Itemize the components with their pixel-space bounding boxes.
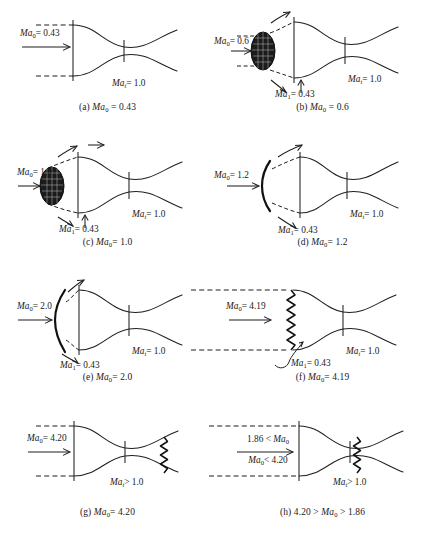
panel-caption-g: (g) Ma0= 4.20 (0, 507, 215, 518)
panel-caption-a: (a) Ma0 = 0.43 (0, 102, 215, 113)
swallowed-shock-zigzag (161, 437, 168, 473)
upper-spill-stream (48, 157, 78, 168)
throat-mach-label: Mat= 1.0 (348, 74, 381, 85)
freestream-mach-label: Ma0= 0.6 (214, 36, 249, 47)
lower-wall (294, 56, 398, 78)
throat-mach-label: Mat= 1.0 (132, 346, 165, 357)
inlet-station-mach-label: Ma1= 0.43 (60, 360, 100, 371)
freestream-mach-label: Ma0= 4.19 (226, 301, 266, 312)
panel-g: Ma0= 4.20 Mat> 1.0 (g) Ma0= 4.20 (0, 405, 215, 539)
panel-d: Ma0= 1.2 Ma1= 0.43 Mat= 1.0 (d) Ma0= 1.2 (215, 135, 430, 270)
panel-b: Ma0= 0.6 Ma1= 0.43 Mat= 1.0 (b) Ma0 = 0.… (215, 0, 430, 135)
upper-spill-stream (272, 157, 300, 169)
inlet-station-mach-label: Ma1= 0.43 (275, 89, 315, 100)
lower-wall (299, 455, 403, 476)
freestream-mach-label: Ma0= 4.20 (27, 433, 67, 444)
freestream-mach-label: Ma0= 2.0 (17, 301, 52, 312)
panel-c: Ma0= 1.0 Ma1= 0.43 Mat= 1.0 (c) Ma0= 1.0 (0, 135, 215, 270)
panel-caption-e: (e) Ma0= 2.0 (0, 372, 215, 383)
upper-spill-stream (270, 22, 294, 33)
throat-mach-label: Mat= 1.0 (112, 78, 145, 89)
normal-shock-zigzag (287, 290, 295, 350)
upper-wall (293, 290, 396, 312)
panel-caption-d: (d) Ma0= 1.2 (215, 237, 430, 248)
inlet-station-mach-label: Ma1= 0.43 (59, 224, 99, 235)
bow-shock (262, 161, 270, 211)
freestream-mach-label-line2: Ma0< 4.20 (233, 455, 303, 466)
panel-caption-h: (h) 4.20 > Ma0 > 1.86 (215, 507, 430, 518)
lower-wall (293, 328, 396, 350)
panel-caption-c: (c) Ma0= 1.0 (0, 237, 215, 248)
inlet-station-mach-label: Ma1= 0.43 (291, 358, 331, 369)
upper-wall (73, 25, 177, 47)
lower-wall (73, 54, 177, 76)
upper-spill-arrow (271, 12, 290, 23)
freestream-mach-label-line1: 1.86 < Ma0 (233, 434, 303, 445)
lower-spill-stream (66, 340, 79, 350)
freestream-mach-label: Ma0= 1.2 (214, 170, 249, 181)
throat-mach-label: Mat> 1.0 (333, 477, 366, 488)
panel-h: 1.86 < Ma0 Ma0< 4.20 Mat> 1.0 (h) 4.20 >… (215, 405, 430, 539)
inlet-station-mach-label: Ma1= 0.43 (278, 225, 318, 236)
throat-mach-label: Mat> 1.0 (110, 477, 143, 488)
lower-wall (78, 191, 182, 213)
freestream-mach-label: Ma0= 1.0 (17, 167, 52, 178)
upper-spill-arrowhead (77, 280, 84, 286)
bow-shock (55, 290, 65, 352)
panel-a: Ma0= 0.43 Mat= 1.0 (a) Ma0 = 0.43 (0, 0, 215, 135)
lower-wall (79, 328, 182, 350)
panel-f: Ma0= 4.19 Ma1= 0.43 Mat= 1.0 (f) Ma0= 4.… (215, 270, 430, 405)
upper-wall (294, 22, 398, 44)
upper-spill-arrow (58, 146, 77, 157)
lower-spill-stream (270, 70, 294, 78)
throat-mach-label: Mat= 1.0 (346, 346, 379, 357)
freestream-mach-label: Ma0= 0.43 (20, 28, 60, 39)
panel-caption-b: (b) Ma0 = 0.6 (215, 102, 430, 113)
upper-wall (78, 157, 182, 179)
throat-mach-label: Mat= 1.0 (132, 209, 165, 220)
throat-mach-label: Mat= 1.0 (350, 209, 383, 220)
panel-caption-f: (f) Ma0= 4.19 (215, 372, 430, 383)
panel-e: Ma0= 2.0 Ma1= 0.43 Mat= 1.0 (e) Ma0= 2.0 (0, 270, 215, 405)
upper-wall (79, 290, 182, 312)
upper-wall (299, 426, 403, 448)
lower-spill-stream (272, 203, 300, 213)
inlet-flow-regimes-figure: Ma0= 0.43 Mat= 1.0 (a) Ma0 = 0.43 (0, 0, 431, 539)
upper-spill-arrow (278, 145, 302, 157)
upper-wall (300, 157, 398, 179)
